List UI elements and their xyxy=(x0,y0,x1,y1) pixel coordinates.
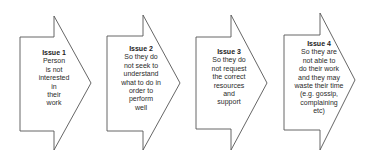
issue-4-text: Issue 4 So they are not able to do their… xyxy=(286,40,352,116)
issue-4-line: etc) xyxy=(286,107,352,115)
issue-3-line: resources xyxy=(200,82,258,90)
issue-4-line: do their work xyxy=(286,65,352,73)
issue-1-line: Person xyxy=(30,57,78,65)
issue-2-line: what to do in xyxy=(111,79,171,87)
issue-1-line: work xyxy=(30,99,78,107)
issue-2-line: understand xyxy=(111,70,171,78)
issue-3-line: the correct xyxy=(200,73,258,81)
issue-1-line: their xyxy=(30,91,78,99)
issue-2-line: not seek to xyxy=(111,62,171,70)
issue-4-line: waste their time xyxy=(286,82,352,90)
issue-4-line: So they are xyxy=(286,48,352,56)
issue-4-line: not able to xyxy=(286,57,352,65)
issue-3-text: Issue 3 So they do not request the corre… xyxy=(200,48,258,107)
issue-4-title: Issue 4 xyxy=(286,40,352,48)
issue-1-title: Issue 1 xyxy=(30,49,78,57)
issue-4-line: complaining xyxy=(286,99,352,107)
issue-3-title: Issue 3 xyxy=(200,48,258,56)
issue-flow-diagram: Issue 1 Person is not interested in thei… xyxy=(0,0,378,162)
issue-1-line: is not xyxy=(30,66,78,74)
issue-3-line: support xyxy=(200,98,258,106)
issue-3-line: and xyxy=(200,90,258,98)
issue-4-line: (e.g. gossip, xyxy=(286,90,352,98)
issue-2-line: order to xyxy=(111,87,171,95)
issue-3-line: So they do xyxy=(200,56,258,64)
issue-2-line: perform xyxy=(111,95,171,103)
issue-2-title: Issue 2 xyxy=(111,45,171,53)
issue-3-line: not request xyxy=(200,65,258,73)
issue-1-line: in xyxy=(30,83,78,91)
issue-2-text: Issue 2 So they do not seek to understan… xyxy=(111,45,171,112)
issue-2-line: well xyxy=(111,104,171,112)
issue-4-line: and they may xyxy=(286,74,352,82)
issue-1-line: interested xyxy=(30,74,78,82)
issue-2-line: So they do xyxy=(111,53,171,61)
issue-1-text: Issue 1 Person is not interested in thei… xyxy=(30,49,78,108)
